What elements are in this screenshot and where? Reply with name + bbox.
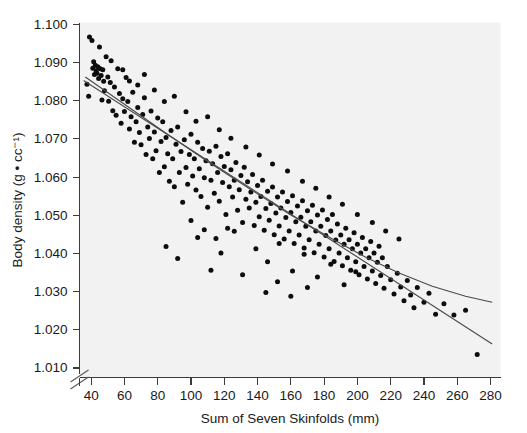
data-point [322,254,327,259]
data-point [275,194,280,199]
data-point [260,178,265,183]
data-point [243,197,248,202]
data-point [253,200,258,205]
data-point [222,164,227,169]
data-point [212,191,217,196]
data-point [415,285,420,290]
data-point [257,152,262,157]
data-point [105,75,110,80]
data-point [237,187,242,192]
data-point [405,278,410,283]
data-point [240,220,245,225]
x-tick-label: 100 [180,388,203,403]
data-point [164,244,169,249]
data-point [108,80,113,85]
data-point [172,184,177,189]
data-point [243,144,248,149]
data-point [290,193,295,198]
data-point [262,228,267,233]
data-point [134,119,139,124]
x-tick-label: 200 [346,388,369,403]
data-point [337,251,342,256]
data-point [217,127,222,132]
data-point [377,244,382,249]
data-point [205,205,210,210]
data-point [208,178,213,183]
data-point [185,182,190,187]
data-point [99,97,104,102]
data-point [137,130,142,135]
y-tick-label: 1.030 [34,284,68,299]
x-tick-label: 240 [413,388,436,403]
data-point [463,308,468,313]
data-point [152,130,157,135]
data-point [120,96,125,101]
data-point [451,312,456,317]
data-point [345,255,350,260]
data-point [228,167,233,172]
data-point [338,233,343,238]
data-point [225,226,230,231]
data-point [89,38,94,43]
x-axis-title: Sum of Seven Skinfolds (mm) [201,411,380,426]
data-point [368,239,373,244]
data-point [340,202,345,207]
data-point [293,219,298,224]
x-tick-label: 140 [246,388,269,403]
data-point [132,140,137,145]
data-point [164,135,169,140]
data-point [114,113,119,118]
data-point [263,206,268,211]
data-point [325,217,330,222]
data-point [343,226,348,231]
data-point [184,165,189,170]
data-point [347,237,352,242]
data-point [154,148,159,153]
x-tick-label: 160 [280,388,303,403]
data-point [228,136,233,141]
data-point [288,294,293,299]
data-point [127,78,132,83]
data-point [257,214,262,219]
data-point [213,144,218,149]
data-point [213,236,218,241]
data-point [200,146,205,151]
data-point [290,269,295,274]
data-point [175,125,180,130]
data-point [208,268,213,273]
data-point [267,218,272,223]
data-point [115,66,120,71]
data-point [441,301,446,306]
data-point [240,272,245,277]
figure-container: 1.0101.0201.0301.0401.0501.0601.0701.080… [0,0,527,433]
data-point [167,179,172,184]
data-point [188,218,193,223]
data-point [177,170,182,175]
data-point [280,189,285,194]
data-point [235,208,240,213]
data-point [147,136,152,141]
data-point [270,185,275,190]
data-point [142,72,147,77]
data-point [253,246,258,251]
x-tick-label: 40 [84,388,99,403]
data-point [315,212,320,217]
data-point [370,269,375,274]
y-tick-label: 1.060 [34,170,68,185]
y-axis-title: Body density (g • cc⁻¹) [10,133,25,268]
data-point [202,175,207,180]
data-point [355,242,360,247]
data-point [198,194,203,199]
data-point [285,168,290,173]
data-point [273,210,278,215]
data-point [263,290,268,295]
data-point [328,228,333,233]
data-point [245,179,250,184]
data-point [265,259,270,264]
data-point [265,189,270,194]
data-point [292,241,297,246]
data-point [129,114,134,119]
data-point [125,99,130,104]
data-point [320,207,325,212]
data-point [302,246,307,251]
